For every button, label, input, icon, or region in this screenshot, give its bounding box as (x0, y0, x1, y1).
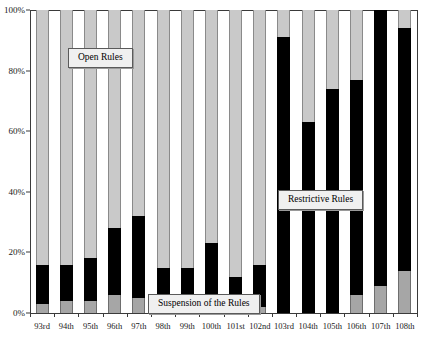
x-tick-mark (272, 313, 273, 317)
x-tick-mark (30, 313, 31, 317)
bar-100th (205, 10, 218, 313)
x-tick-mark (320, 313, 321, 317)
x-tick-mark (127, 313, 128, 317)
segment-open (157, 10, 170, 268)
bar-101st (229, 10, 242, 313)
bar-102nd (253, 10, 266, 313)
x-tick-label-98th: 98th (155, 321, 170, 331)
segment-open (132, 10, 145, 216)
segment-open (229, 10, 242, 277)
x-tick-label-94th: 94th (59, 321, 74, 331)
segment-restrictive (36, 265, 49, 304)
segment-open (205, 10, 218, 243)
y-tick-label: 80% (9, 66, 31, 75)
segment-open (253, 10, 266, 265)
bar-104th (302, 10, 315, 313)
segment-open (108, 10, 121, 228)
plot-right-border (417, 10, 418, 314)
y-tick-label: 0% (13, 309, 30, 318)
segment-open (326, 10, 339, 89)
segment-open (398, 10, 411, 28)
segment-suspension (350, 295, 363, 313)
x-tick-label-103rd: 103rd (274, 321, 294, 331)
suspension-callout: Suspension of the Rules (148, 294, 260, 314)
bar-97th (132, 10, 145, 313)
stacked-bar-chart: 0%20%40%60%80%100% 93rd94th95th96th97th9… (0, 0, 423, 340)
x-tick-mark (78, 313, 79, 317)
segment-open (36, 10, 49, 265)
segment-restrictive (108, 228, 121, 295)
segment-open (350, 10, 363, 80)
bar-98th (157, 10, 170, 313)
x-tick-label-97th: 97th (131, 321, 146, 331)
y-tick-label: 100% (4, 6, 30, 15)
x-tick-mark (417, 313, 418, 317)
open-rules-callout: Open Rules (68, 48, 133, 68)
x-tick-label-102nd: 102nd (249, 321, 270, 331)
segment-open (302, 10, 315, 122)
segment-restrictive (350, 80, 363, 295)
segment-suspension (108, 295, 121, 313)
restrictive-callout: Restrictive Rules (278, 190, 363, 210)
bar-99th (181, 10, 194, 313)
segment-suspension (398, 271, 411, 313)
segment-restrictive (398, 28, 411, 270)
segment-suspension (36, 304, 49, 313)
x-tick-label-105th: 105th (323, 321, 342, 331)
segment-suspension (374, 286, 387, 313)
segment-restrictive (84, 258, 97, 300)
x-tick-label-104th: 104th (298, 321, 317, 331)
x-tick-label-108th: 108th (395, 321, 414, 331)
segment-open (181, 10, 194, 268)
segment-suspension (132, 298, 145, 313)
x-tick-label-96th: 96th (107, 321, 122, 331)
y-tick-label: 20% (9, 248, 31, 257)
bar-107th (374, 10, 387, 313)
segment-restrictive (132, 216, 145, 298)
bar-106th (350, 10, 363, 313)
x-tick-label-99th: 99th (180, 321, 195, 331)
y-tick-label: 40% (9, 187, 31, 196)
x-tick-mark (103, 313, 104, 317)
y-tick-label: 60% (9, 127, 31, 136)
segment-restrictive (60, 265, 73, 301)
segment-restrictive (277, 37, 290, 313)
x-tick-label-107th: 107th (371, 321, 390, 331)
x-tick-label-93rd: 93rd (34, 321, 50, 331)
x-tick-mark (393, 313, 394, 317)
segment-restrictive (374, 10, 387, 286)
bar-105th (326, 10, 339, 313)
bar-108th (398, 10, 411, 313)
y-axis-line (30, 10, 31, 314)
bar-93rd (36, 10, 49, 313)
x-tick-label-100th: 100th (202, 321, 221, 331)
x-tick-label-95th: 95th (83, 321, 98, 331)
x-tick-mark (54, 313, 55, 317)
x-tick-label-106th: 106th (347, 321, 366, 331)
x-tick-label-101st: 101st (226, 321, 244, 331)
bar-103rd (277, 10, 290, 313)
segment-open (277, 10, 290, 37)
x-tick-mark (344, 313, 345, 317)
segment-restrictive (302, 122, 315, 313)
x-tick-mark (369, 313, 370, 317)
x-tick-mark (296, 313, 297, 317)
segment-suspension (60, 301, 73, 313)
segment-suspension (84, 301, 97, 313)
